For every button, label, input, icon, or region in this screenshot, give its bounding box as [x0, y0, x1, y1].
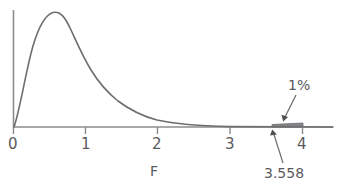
x-tick-label-0: 0 [8, 137, 18, 152]
percent-annotation-arrow [282, 95, 297, 122]
x-tick-label-1: 1 [81, 137, 91, 152]
x-axis-ticks [14, 127, 303, 134]
x-tick-label-2: 2 [152, 137, 162, 152]
density-curve [14, 12, 333, 127]
critical-value-annotation-arrow [270, 129, 283, 163]
plot-area [0, 0, 340, 188]
f-distribution-figure: 0 1 2 3 4 F 1% 3.558 [0, 0, 340, 188]
percent-annotation-label: 1% [288, 78, 310, 92]
critical-value-annotation-label: 3.558 [264, 166, 304, 180]
x-tick-label-3: 3 [225, 137, 235, 152]
x-tick-label-4: 4 [297, 137, 307, 152]
x-axis-title: F [150, 164, 158, 178]
